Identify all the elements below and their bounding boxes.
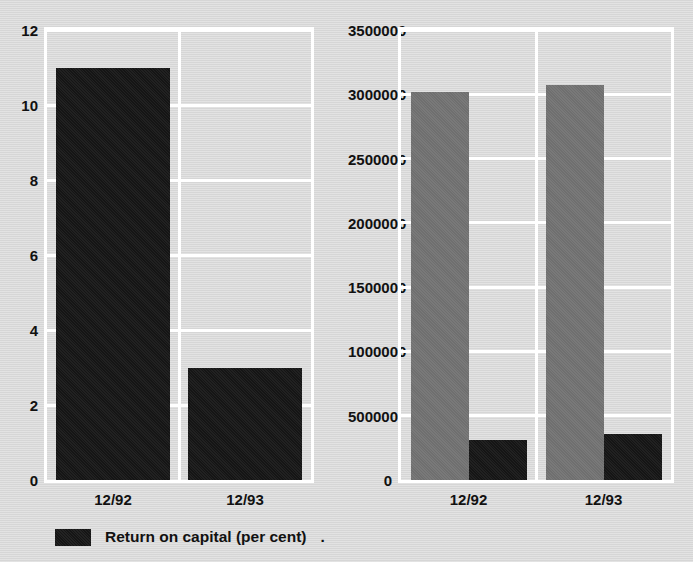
- bar: [411, 92, 469, 480]
- y-axis-tick-label: 8: [2, 173, 38, 188]
- figure-root: 024681012 12/9212/93 Return on capital (…: [0, 0, 693, 562]
- y-axis-right: 0500000100000015000002000000250000030000…: [348, 0, 392, 562]
- y-axis-tick-label: 10: [2, 98, 38, 113]
- plot-area-left: [44, 27, 314, 483]
- y-axis-tick-label: 0: [2, 473, 38, 488]
- x-axis-tick-label: 12/93: [179, 492, 311, 507]
- y-axis-tick-label: 2000000: [348, 216, 392, 231]
- plot-area-right: [398, 27, 674, 483]
- y-axis-tick-label: 2500000: [348, 152, 392, 167]
- y-axis-tick-label: 2: [2, 398, 38, 413]
- bar: [604, 434, 662, 480]
- y-axis-tick-label: 0: [348, 473, 392, 488]
- bar: [56, 68, 170, 481]
- gridline-vertical: [535, 30, 538, 480]
- legend-swatch-dark: [55, 529, 91, 546]
- y-axis-tick-label: 3500000: [348, 23, 392, 38]
- y-axis-tick-label: 1000000: [348, 344, 392, 359]
- legend-trailer: .: [321, 528, 325, 546]
- bar: [469, 440, 527, 481]
- legend-label: Return on capital (per cent): [105, 529, 307, 545]
- chart-sales-and-profit: 0500000100000015000002000000250000030000…: [348, 0, 693, 562]
- x-axis-tick-label: 12/92: [401, 492, 536, 507]
- y-axis-tick-label: 3000000: [348, 87, 392, 102]
- chart-return-on-capital: 024681012 12/9212/93 Return on capital (…: [0, 0, 348, 562]
- y-axis-tick-label: 500000: [348, 409, 392, 424]
- y-axis-tick-label: 12: [2, 23, 38, 38]
- y-axis-tick-label: 1500000: [348, 280, 392, 295]
- gridline-vertical: [178, 30, 181, 480]
- legend-left: Return on capital (per cent).: [55, 528, 325, 546]
- y-axis-left: 024681012: [0, 0, 38, 562]
- y-axis-tick-label: 6: [2, 248, 38, 263]
- bar: [188, 368, 302, 481]
- y-axis-tick-label: 4: [2, 323, 38, 338]
- x-axis-tick-label: 12/92: [47, 492, 179, 507]
- bar: [546, 85, 604, 480]
- x-axis-tick-label: 12/93: [536, 492, 671, 507]
- legend-item: Return on capital (per cent): [55, 529, 307, 546]
